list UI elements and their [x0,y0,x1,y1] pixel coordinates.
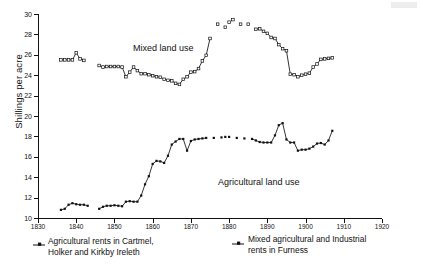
y-tick-label: 30 [16,11,32,18]
data-point [102,206,104,208]
data-point [175,140,177,142]
data-point [98,208,100,210]
data-point [278,124,280,126]
y-tick-label: 24 [16,72,32,79]
legend-label-line1: Agricultural rents in Cartmel, [48,236,154,247]
data-point [232,18,235,21]
data-point [109,65,112,68]
y-axis-line [38,14,39,219]
data-point [60,209,62,211]
data-point [274,134,276,136]
data-point [278,43,281,46]
data-point [312,146,314,148]
data-point [75,51,78,54]
data-point [79,58,82,61]
data-point [125,75,128,78]
series-line [256,29,332,77]
data-point [98,64,101,67]
data-point [297,150,299,152]
data-point [151,74,154,77]
data-point [171,143,173,145]
data-point [87,205,89,207]
data-point [293,73,296,76]
data-point [71,202,73,204]
legend-marker-mixed [232,239,245,249]
data-point [129,200,131,202]
x-tick-label: 1870 [176,224,206,231]
data-point [197,67,200,70]
data-point [216,23,219,26]
series-mixed-land-use [60,18,334,85]
data-point [247,23,250,26]
x-tick-label: 1880 [214,224,244,231]
data-point [117,65,120,68]
data-series-layer [38,14,382,219]
data-point [110,205,112,207]
data-point [270,36,273,39]
y-tick [34,96,38,97]
x-tick-label: 1910 [329,224,359,231]
data-point [266,32,269,35]
data-point [132,201,134,203]
data-point [193,70,196,73]
data-point [308,148,310,150]
data-point [228,136,230,138]
y-tick [34,177,38,178]
data-point [220,136,222,138]
plot-area: 1012141618202224262830 18301840185018601… [38,14,381,218]
data-point [258,27,261,30]
chart-figure: Shillings per acre 101214161820222426283… [0,0,421,268]
data-point [163,162,165,164]
annotation-mixed-land-use: Mixed land use [133,43,194,53]
data-point [213,137,215,139]
data-point [282,122,284,124]
data-point [190,71,193,74]
x-tick-label: 1890 [252,224,282,231]
page-edge-artifact [391,2,417,8]
data-point [117,205,119,207]
y-tick-label: 28 [16,31,32,38]
x-axis-line [38,218,382,219]
data-point [83,204,85,206]
data-point [148,175,150,177]
data-point [113,65,116,68]
data-point [259,141,261,143]
x-tick-label: 1860 [138,224,168,231]
data-point [155,160,157,162]
data-point [320,58,323,61]
data-point [170,80,173,83]
data-point [304,73,307,76]
data-point [174,82,177,85]
y-tick-label: 10 [16,215,32,222]
data-point [301,149,303,151]
data-point [194,138,196,140]
legend-label-line1: Mixed agricultural and Industrial [248,234,366,245]
data-point [316,142,318,144]
y-tick-label: 16 [16,153,32,160]
data-point [293,141,295,143]
y-tick [34,198,38,199]
data-point [102,66,105,69]
y-tick-label: 22 [16,92,32,99]
x-tick-label: 1900 [291,224,321,231]
data-point [209,37,212,40]
data-point [266,141,268,143]
data-point [163,78,166,81]
data-point [285,138,287,140]
data-point [255,139,257,141]
data-point [106,205,108,207]
data-point [186,150,188,152]
x-tick-label: 1830 [23,224,53,231]
series-line [99,138,206,209]
y-tick-label: 18 [16,133,32,140]
data-point [67,204,69,206]
data-point [60,59,63,62]
y-tick [34,55,38,56]
x-tick-label: 1850 [99,224,129,231]
data-point [320,142,322,144]
data-point [121,66,124,69]
data-point [224,26,227,29]
data-point [289,141,291,143]
data-point [224,136,226,138]
data-point [236,137,238,139]
